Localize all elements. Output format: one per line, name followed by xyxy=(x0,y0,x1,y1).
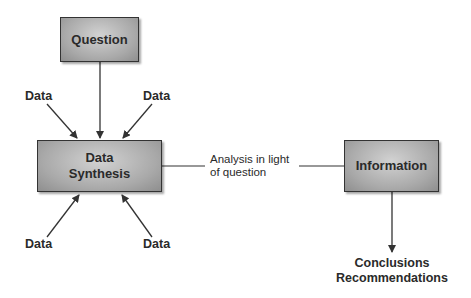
question-label: Question xyxy=(71,32,127,48)
conclusions-label: Conclusions xyxy=(332,256,452,271)
data-synthesis-box: Data Synthesis xyxy=(37,140,162,192)
synthesis-label-line2: Synthesis xyxy=(69,166,130,182)
information-label: Information xyxy=(356,158,428,174)
arrow-data-bottom-left xyxy=(47,195,79,237)
recommendations-label: Recommendations xyxy=(332,271,452,286)
conclusions-output: Conclusions Recommendations xyxy=(332,256,452,286)
question-box: Question xyxy=(60,17,139,62)
arrow-data-top-right xyxy=(123,104,152,138)
analysis-label-line2: of question xyxy=(210,166,289,179)
analysis-edge-label: Analysis in light of question xyxy=(210,153,289,179)
data-label-bottom-right: Data xyxy=(143,237,170,251)
data-label-bottom-left: Data xyxy=(25,237,52,251)
analysis-label-line1: Analysis in light xyxy=(210,153,289,166)
arrow-data-top-left xyxy=(47,104,77,138)
synthesis-label-line1: Data xyxy=(85,150,113,166)
information-box: Information xyxy=(344,140,439,192)
arrow-data-bottom-right xyxy=(122,195,152,237)
data-label-top-right: Data xyxy=(143,89,170,103)
data-label-top-left: Data xyxy=(25,89,52,103)
